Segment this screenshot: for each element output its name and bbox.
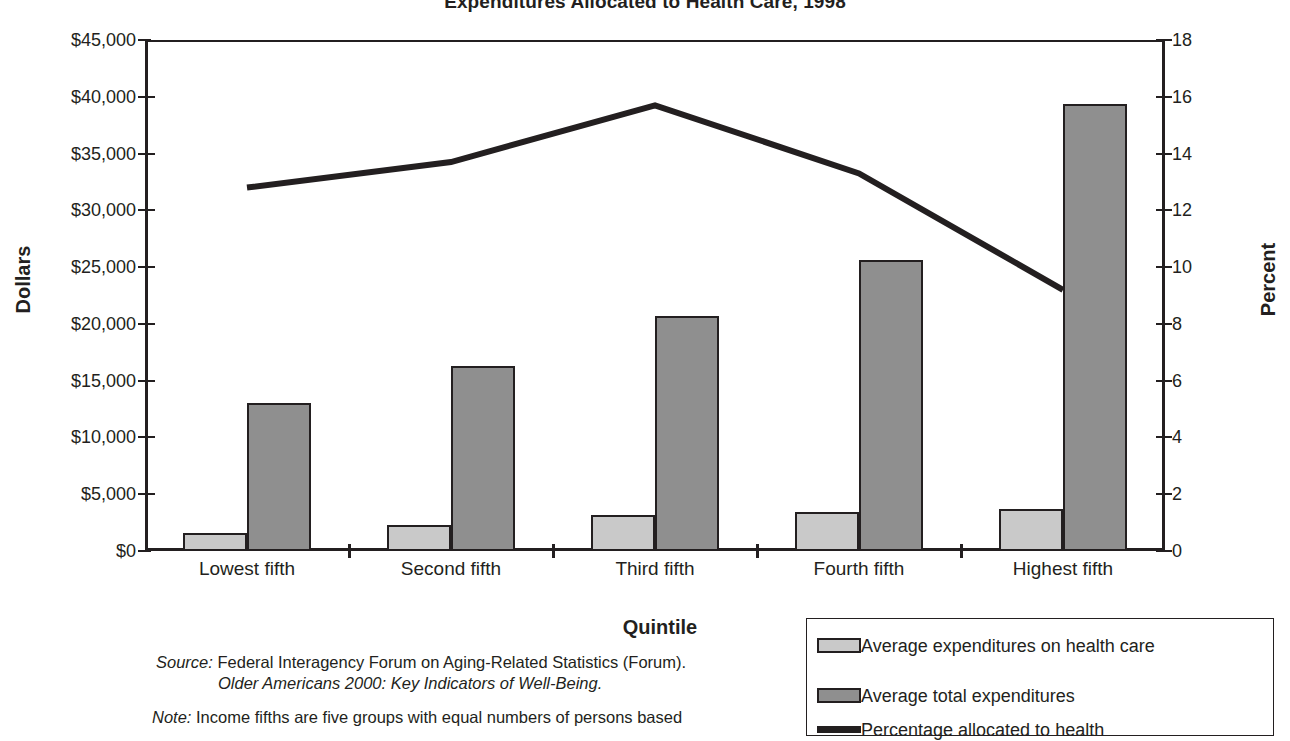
source-label: Source: bbox=[156, 653, 213, 671]
legend-swatch-line-icon bbox=[817, 726, 861, 733]
source-line-1: Source: Federal Interagency Forum on Agi… bbox=[156, 652, 798, 673]
footnotes: Source: Federal Interagency Forum on Agi… bbox=[138, 652, 798, 741]
right-tick-mark-3 bbox=[1156, 380, 1172, 382]
right-tick-label-2: 4 bbox=[1172, 427, 1182, 448]
right-tick-label-1: 2 bbox=[1172, 484, 1182, 505]
left-tick-label-9: $45,000 bbox=[71, 30, 136, 51]
note-label: Note: bbox=[152, 708, 191, 726]
left-tick-mark-3 bbox=[138, 380, 155, 382]
line-series-layer bbox=[145, 40, 1165, 551]
left-tick-label-6: $30,000 bbox=[71, 200, 136, 221]
left-tick-label-4: $20,000 bbox=[71, 313, 136, 334]
legend-percentage[interactable]: Percentage allocated to health bbox=[817, 719, 1251, 741]
left-tick-label-0: $0 bbox=[116, 541, 136, 562]
right-tick-label-8: 16 bbox=[1172, 86, 1192, 107]
right-tick-mark-4 bbox=[1156, 323, 1172, 325]
page-title: Expenditures Allocated to Health Care, 1… bbox=[0, 0, 1290, 13]
x-axis-separator-tick-3 bbox=[756, 544, 759, 558]
source-note: Source: Federal Interagency Forum on Agi… bbox=[138, 652, 798, 694]
plot-area bbox=[145, 40, 1165, 551]
left-tick-mark-8 bbox=[138, 96, 155, 98]
note-line-1: Note: Income fifths are five groups with… bbox=[152, 707, 798, 728]
legend-total[interactable]: Average total expenditures bbox=[817, 685, 1251, 707]
right-tick-label-7: 14 bbox=[1172, 143, 1192, 164]
right-tick-label-3: 6 bbox=[1172, 370, 1182, 391]
left-tick-mark-1 bbox=[138, 493, 155, 495]
legend-swatch-health-icon bbox=[817, 638, 861, 653]
right-tick-mark-7 bbox=[1156, 153, 1172, 155]
right-tick-mark-6 bbox=[1156, 209, 1172, 211]
left-tick-mark-9 bbox=[138, 39, 151, 41]
chart-legend: Average expenditures on health careAvera… bbox=[806, 618, 1274, 736]
right-tick-label-0: 0 bbox=[1172, 541, 1182, 562]
general-note: Note: Income fifths are five groups with… bbox=[138, 707, 798, 728]
right-tick-label-6: 12 bbox=[1172, 200, 1192, 221]
left-tick-mark-6 bbox=[138, 209, 155, 211]
right-tick-mark-9 bbox=[1156, 39, 1172, 41]
left-tick-mark-5 bbox=[138, 266, 155, 268]
right-tick-mark-2 bbox=[1156, 436, 1172, 438]
x-axis-separator-tick-2 bbox=[552, 544, 555, 558]
left-tick-label-2: $10,000 bbox=[71, 427, 136, 448]
legend-health-care[interactable]: Average expenditures on health care bbox=[817, 635, 1251, 657]
source-text-1: Federal Interagency Forum on Aging-Relat… bbox=[213, 653, 686, 671]
left-tick-mark-2 bbox=[138, 436, 155, 438]
percentage-line bbox=[247, 105, 1063, 289]
source-line-2: Older Americans 2000: Key Indicators of … bbox=[156, 673, 798, 694]
right-tick-mark-8 bbox=[1156, 96, 1172, 98]
left-axis-title: Dollars bbox=[12, 230, 35, 330]
right-axis-title: Percent bbox=[1257, 230, 1280, 330]
right-axis-tick-labels: 024681012141618 bbox=[1172, 40, 1212, 551]
left-tick-label-5: $25,000 bbox=[71, 257, 136, 278]
note-text-1: Income fifths are five groups with equal… bbox=[191, 708, 682, 726]
left-tick-mark-0 bbox=[138, 550, 151, 552]
legend-swatch-total-icon bbox=[817, 688, 861, 703]
left-tick-label-8: $40,000 bbox=[71, 86, 136, 107]
right-tick-label-4: 8 bbox=[1172, 313, 1182, 334]
legend-total-label: Average total expenditures bbox=[861, 685, 1251, 707]
right-tick-mark-1 bbox=[1156, 493, 1172, 495]
x-category-label-4: Highest fifth bbox=[1013, 558, 1113, 580]
x-category-label-0: Lowest fifth bbox=[199, 558, 295, 580]
legend-health-care-label: Average expenditures on health care bbox=[861, 635, 1251, 657]
x-category-label-3: Fourth fifth bbox=[814, 558, 905, 580]
left-tick-mark-4 bbox=[138, 323, 155, 325]
x-axis-title: Quintile bbox=[560, 616, 760, 639]
x-category-label-1: Second fifth bbox=[401, 558, 501, 580]
left-axis-tick-labels: $0$5,000$10,000$15,000$20,000$25,000$30,… bbox=[18, 40, 136, 551]
right-tick-mark-0 bbox=[1156, 550, 1172, 552]
right-tick-mark-5 bbox=[1156, 266, 1172, 268]
right-tick-label-5: 10 bbox=[1172, 257, 1192, 278]
left-tick-label-1: $5,000 bbox=[81, 484, 136, 505]
left-tick-label-7: $35,000 bbox=[71, 143, 136, 164]
x-category-label-2: Third fifth bbox=[615, 558, 694, 580]
right-tick-label-9: 18 bbox=[1172, 30, 1192, 51]
legend-percentage-label: Percentage allocated to health bbox=[861, 719, 1251, 741]
x-axis-separator-tick-4 bbox=[960, 544, 963, 558]
left-tick-label-3: $15,000 bbox=[71, 370, 136, 391]
left-tick-mark-7 bbox=[138, 153, 155, 155]
x-axis-separator-tick-1 bbox=[348, 544, 351, 558]
x-axis-category-labels: Lowest fifthSecond fifthThird fifthFourt… bbox=[145, 558, 1165, 588]
